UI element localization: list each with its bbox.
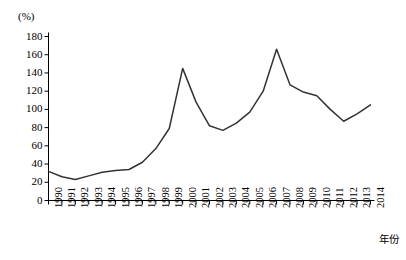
axes-group [45,33,375,205]
data-line [49,49,371,179]
line-chart: (%) 020406080100120140160180 19901991199… [0,0,406,260]
data-series-group [49,49,371,179]
chart-plot-area [0,0,406,260]
